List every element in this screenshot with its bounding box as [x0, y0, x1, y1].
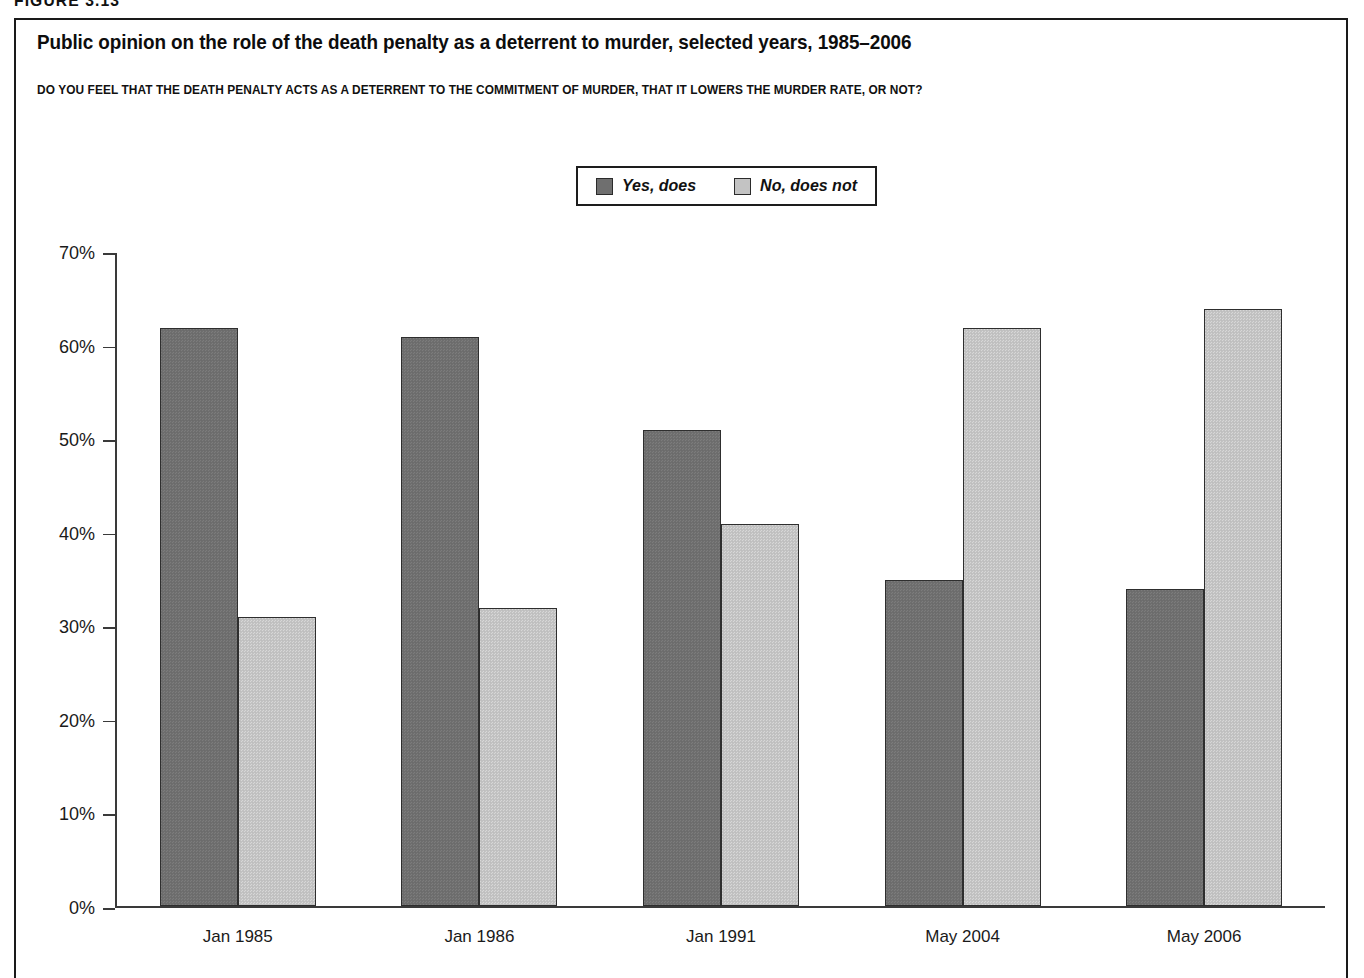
legend-label-yes: Yes, does	[622, 177, 696, 195]
x-tick-label: May 2004	[842, 927, 1084, 947]
bar-pair	[160, 328, 316, 906]
y-tick-label: 40%	[59, 523, 95, 544]
y-tick-label: 60%	[59, 336, 95, 357]
y-tick-label: 0%	[69, 898, 95, 919]
chart-subtitle: DO YOU FEEL THAT THE DEATH PENALTY ACTS …	[37, 82, 923, 97]
bar-group: May 2006	[1083, 253, 1325, 906]
legend-swatch-icon-no	[734, 178, 751, 195]
y-tick-label: 70%	[59, 243, 95, 264]
y-tick-mark	[103, 627, 115, 629]
x-axis	[115, 906, 1325, 908]
bar-group: Jan 1991	[600, 253, 842, 906]
bar-pair	[643, 430, 799, 906]
y-tick-mark	[103, 347, 115, 349]
y-tick-mark	[103, 440, 115, 442]
y-tick-mark	[103, 721, 115, 723]
bar-group: Jan 1986	[359, 253, 601, 906]
legend-label-no: No, does not	[760, 177, 857, 195]
y-tick-mark	[103, 253, 115, 255]
bar-yes-does	[885, 580, 963, 907]
legend-swatch-icon-yes	[596, 178, 613, 195]
x-tick-label: Jan 1985	[117, 927, 359, 947]
legend-item-no: No, does not	[734, 177, 857, 195]
bar-no-does-not	[238, 617, 316, 906]
bar-no-does-not	[721, 524, 799, 906]
x-tick-label: Jan 1991	[600, 927, 842, 947]
x-tick-label: Jan 1986	[359, 927, 601, 947]
y-tick-mark	[103, 814, 115, 816]
y-tick-label: 10%	[59, 804, 95, 825]
chart-legend: Yes, does No, does not	[576, 166, 877, 206]
bar-no-does-not	[1204, 309, 1282, 906]
bar-groups: Jan 1985Jan 1986Jan 1991May 2004May 2006	[117, 253, 1325, 906]
bar-pair	[401, 337, 557, 906]
bar-group: May 2004	[842, 253, 1084, 906]
bar-group: Jan 1985	[117, 253, 359, 906]
bar-no-does-not	[479, 608, 557, 907]
y-tick-label: 30%	[59, 617, 95, 638]
bar-yes-does	[643, 430, 721, 906]
y-tick-label: 20%	[59, 710, 95, 731]
bar-yes-does	[1126, 589, 1204, 906]
bar-yes-does	[160, 328, 238, 906]
figure-number: FIGURE 3.13	[14, 0, 120, 11]
y-tick-mark	[103, 908, 115, 910]
y-tick-label: 50%	[59, 430, 95, 451]
chart-title: Public opinion on the role of the death …	[37, 30, 911, 54]
bar-no-does-not	[963, 328, 1041, 906]
bar-pair	[885, 328, 1041, 906]
bar-yes-does	[401, 337, 479, 906]
y-tick-mark	[103, 534, 115, 536]
plot-area: 70%60%50%40%30%20%10%0% Jan 1985Jan 1986…	[115, 253, 1325, 908]
bar-pair	[1126, 309, 1282, 906]
x-tick-label: May 2006	[1083, 927, 1325, 947]
legend-item-yes: Yes, does	[596, 177, 696, 195]
